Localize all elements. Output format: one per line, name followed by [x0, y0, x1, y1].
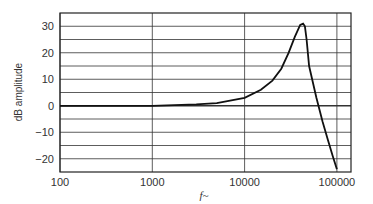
- x-ticks: 100100010000100000: [51, 176, 355, 188]
- x-tick-label: 1000: [140, 176, 164, 188]
- x-tick-label: 10000: [229, 176, 260, 188]
- y-axis-label: dB amplitude: [13, 62, 24, 121]
- y-tick-label: 30: [42, 20, 54, 32]
- y-tick-label: 10: [42, 73, 54, 85]
- x-axis-label: f~: [199, 189, 208, 201]
- response-curve: [60, 24, 337, 170]
- y-tick-label: 20: [42, 47, 54, 59]
- y-ticks: 3020100−10−20: [35, 20, 54, 165]
- grid: [60, 13, 351, 172]
- x-tick-label: 100: [51, 176, 69, 188]
- y-tick-label: −10: [35, 126, 54, 138]
- x-tick-label: 100000: [319, 176, 356, 188]
- chart: 3020100−10−20 100100010000100000 dB ampl…: [0, 0, 373, 204]
- y-tick-label: 0: [48, 100, 54, 112]
- y-tick-label: −20: [35, 153, 54, 165]
